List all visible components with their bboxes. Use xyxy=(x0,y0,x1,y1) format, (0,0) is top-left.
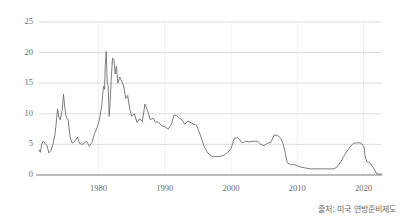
line-chart-plot xyxy=(0,0,402,217)
y-tick-5: 5 xyxy=(11,139,33,148)
x-tick-1980: 1980 xyxy=(79,184,119,193)
y-tick-25: 25 xyxy=(11,17,33,26)
y-tick-0: 0 xyxy=(11,170,33,179)
source-note: 출처: 미국 연방준비제도 xyxy=(318,203,396,214)
y-tick-10: 10 xyxy=(11,109,33,118)
x-tick-2020: 2020 xyxy=(343,184,383,193)
chart-container: 0510152025 19801990200020102020 출처: 미국 연… xyxy=(0,0,402,217)
x-tick-1990: 1990 xyxy=(145,184,185,193)
x-tick-2000: 2000 xyxy=(211,184,251,193)
fed-funds-rate-line xyxy=(39,51,382,174)
x-tick-2010: 2010 xyxy=(277,184,317,193)
vertical-gridlines xyxy=(99,22,364,175)
horizontal-gridlines xyxy=(39,22,382,144)
y-tick-15: 15 xyxy=(11,78,33,87)
y-tick-20: 20 xyxy=(11,48,33,57)
